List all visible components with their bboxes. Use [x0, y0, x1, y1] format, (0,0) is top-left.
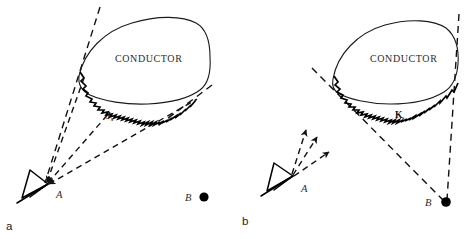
source-point-dot-b	[441, 197, 451, 207]
panel-b: CONDUCTOR K s A B b	[242, 14, 459, 227]
observer-eye-icon-a	[17, 170, 48, 203]
ray-a-3	[49, 99, 197, 184]
source-point-dot-a	[199, 192, 208, 201]
observer-point-label-b: A	[300, 183, 308, 194]
observer-point-label-a: A	[55, 189, 63, 200]
panel-label-b: b	[242, 215, 248, 227]
tangent-line-right-b	[447, 14, 459, 200]
source-point-label-a: B	[185, 192, 192, 203]
source-point-label-b: B	[425, 197, 432, 208]
observer-eye-icon-b	[261, 163, 293, 196]
panel-a: CONDUCTOR J s A B a	[6, 7, 212, 232]
conductor-label-a: CONDUCTOR	[115, 53, 182, 64]
tangent-line-left-a	[45, 7, 100, 183]
figure-canvas: CONDUCTOR J s A B a	[0, 0, 471, 239]
panel-label-a: a	[6, 220, 13, 232]
tangent-line-left-b	[312, 68, 444, 201]
ray-b-1	[292, 130, 306, 174]
conductor-label-b: CONDUCTOR	[370, 53, 437, 64]
figure-root: CONDUCTOR J s A B a	[0, 0, 471, 239]
surface-current-zigzag-a	[80, 72, 196, 125]
ray-a-2	[48, 112, 110, 183]
